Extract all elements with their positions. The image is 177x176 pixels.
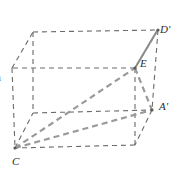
edge-vertical-back-right [152,30,158,110]
vertex-label-a-prime: A' [159,101,168,112]
edge-bottom-right [135,110,152,145]
vertex-dot-e [133,66,136,69]
segment-c-to-a-prime [15,110,152,148]
vertex-dot-a-prime [150,108,153,111]
geometry-figure: D' E A' C a [0,0,177,176]
edge-top-back [33,30,158,32]
edge-bottom-back [33,110,152,113]
clipped-edge-label: a [0,72,1,83]
figure-canvas [0,0,177,176]
vertex-label-e: E [140,58,147,69]
vertex-label-d-prime: D' [160,24,170,35]
segment-e-to-a-prime [135,68,152,110]
edge-bottom-front [15,145,135,148]
vertex-markers [13,28,159,149]
vertex-dot-c [13,146,16,149]
highlight-triangle [15,68,152,148]
box-edges [12,30,158,148]
edge-vertical-front-left [12,68,15,148]
edge-top-left [12,32,33,68]
vertex-label-c: C [12,156,19,167]
